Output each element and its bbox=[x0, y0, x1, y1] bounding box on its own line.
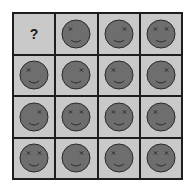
face-cell bbox=[56, 139, 96, 179]
face-cell bbox=[99, 97, 139, 137]
face-cell bbox=[56, 97, 96, 137]
face-cell bbox=[141, 14, 181, 54]
face-cell bbox=[14, 56, 54, 96]
smiley-face-icon bbox=[104, 143, 134, 173]
smiley-face-icon bbox=[19, 60, 49, 90]
face-cell bbox=[99, 139, 139, 179]
smiley-face-icon bbox=[19, 102, 49, 132]
smiley-face-icon bbox=[104, 60, 134, 90]
question-mark: ? bbox=[30, 26, 39, 42]
face-cell bbox=[141, 56, 181, 96]
face-cell bbox=[99, 14, 139, 54]
smiley-face-icon bbox=[61, 60, 91, 90]
missing-cell: ? bbox=[14, 14, 54, 54]
smiley-face-icon bbox=[146, 19, 176, 49]
smiley-face-icon bbox=[104, 19, 134, 49]
face-cell bbox=[56, 56, 96, 96]
smiley-face-icon bbox=[19, 143, 49, 173]
smiley-face-icon bbox=[146, 60, 176, 90]
smiley-face-icon bbox=[146, 143, 176, 173]
smiley-face-icon bbox=[146, 102, 176, 132]
smiley-face-icon bbox=[61, 143, 91, 173]
face-cell bbox=[14, 97, 54, 137]
smiley-face-icon bbox=[61, 19, 91, 49]
smiley-face-icon bbox=[61, 102, 91, 132]
face-cell bbox=[14, 139, 54, 179]
smiley-face-icon bbox=[104, 102, 134, 132]
puzzle-grid: ? bbox=[12, 12, 183, 180]
face-cell bbox=[141, 139, 181, 179]
face-cell bbox=[99, 56, 139, 96]
face-cell bbox=[141, 97, 181, 137]
face-cell bbox=[56, 14, 96, 54]
